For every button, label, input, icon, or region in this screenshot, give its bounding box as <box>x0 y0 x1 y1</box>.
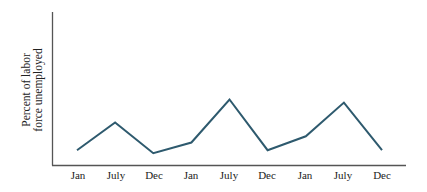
x-tick-label: July <box>107 169 126 181</box>
y-axis-title: Percent of labor force unemployed <box>20 48 45 132</box>
unemployment-series-line <box>77 100 382 154</box>
x-tick-label: Dec <box>373 169 391 181</box>
x-tick-label: Dec <box>145 169 163 181</box>
x-tick-label: July <box>220 169 239 181</box>
y-axis-title-line-2: force unemployed <box>32 48 45 132</box>
y-axis-title-line-1: Percent of labor <box>20 53 32 127</box>
x-tick-label: Dec <box>258 169 276 181</box>
x-tick-label: Jan <box>298 169 313 181</box>
x-tick-labels: Jan July Dec Jan July Dec Jan July Dec <box>71 169 391 181</box>
x-tick-label: Jan <box>184 169 199 181</box>
x-tick-label: Jan <box>71 169 86 181</box>
x-tick-label: July <box>334 169 353 181</box>
unemployment-line-chart: Percent of labor force unemployed Jan Ju… <box>0 0 427 192</box>
